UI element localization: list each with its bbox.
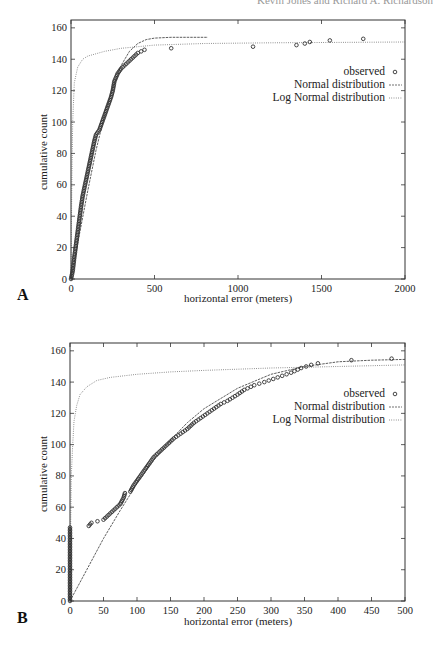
y-axis-ticks: 020406080100120140160: [51, 22, 405, 284]
y-tick-label: 80: [56, 470, 67, 481]
x-tick-label: 0: [68, 283, 73, 294]
panel-letter-a: A: [17, 286, 29, 303]
y-tick-label: 120: [51, 85, 67, 96]
x-tick-label: 500: [397, 605, 413, 616]
x-tick-label: 400: [330, 605, 346, 616]
x-axis-ticks: 0500100015002000: [68, 20, 415, 294]
x-tick-label: 150: [163, 605, 179, 616]
legend: observed Normal distribution Log Normal …: [273, 387, 402, 426]
chart-panel-b: 020406080100120140160 050100150200250300…: [0, 322, 433, 645]
chart-a-canvas: 020406080100120140160 0500100015002000 o…: [0, 0, 433, 322]
y-tick-label: 140: [50, 377, 66, 388]
y-tick-label: 60: [56, 502, 67, 513]
y-tick-label: 80: [57, 148, 68, 159]
x-axis-ticks: 050100150200250300350400450500: [67, 343, 413, 616]
y-tick-label: 60: [57, 179, 68, 190]
observed-points: [69, 37, 365, 281]
chart-panel-a: 020406080100120140160 0500100015002000 o…: [0, 0, 433, 322]
x-tick-label: 100: [129, 605, 145, 616]
legend-normal-label: Normal distribution: [294, 78, 385, 90]
y-tick-label: 120: [50, 408, 66, 419]
x-axis-title: horizontal error (meters): [184, 292, 292, 305]
y-tick-label: 40: [57, 211, 68, 222]
y-tick-label: 100: [51, 117, 67, 128]
plot-frame: [70, 343, 405, 601]
legend-observed-label: observed: [343, 387, 385, 399]
y-tick-label: 100: [50, 439, 66, 450]
y-tick-label: 160: [51, 22, 67, 33]
y-tick-label: 0: [61, 596, 66, 607]
x-tick-label: 2000: [395, 283, 416, 294]
x-tick-label: 450: [364, 605, 380, 616]
x-axis-title: horizontal error (meters): [184, 615, 292, 628]
panel-letter-b: B: [17, 609, 28, 626]
legend-lognormal-label: Log Normal distribution: [273, 413, 386, 426]
x-tick-label: 0: [67, 605, 72, 616]
x-tick-label: 500: [147, 283, 163, 294]
chart-b-canvas: 020406080100120140160 050100150200250300…: [0, 322, 433, 645]
y-tick-label: 160: [50, 345, 66, 356]
y-tick-label: 140: [51, 54, 67, 65]
x-tick-label: 1500: [311, 283, 332, 294]
y-axis-ticks: 020406080100120140160: [50, 345, 405, 606]
legend: observed Normal distribution Log Normal …: [273, 65, 402, 104]
legend-observed-label: observed: [343, 65, 385, 77]
plot-frame: [71, 20, 405, 279]
y-tick-label: 0: [62, 274, 67, 285]
y-tick-label: 20: [56, 564, 67, 575]
y-axis-title: cumulative count: [37, 436, 49, 512]
y-tick-label: 20: [57, 242, 68, 253]
x-tick-label: 350: [297, 605, 313, 616]
x-tick-label: 50: [98, 605, 109, 616]
y-axis-title: cumulative count: [37, 114, 49, 190]
legend-observed-marker: [393, 392, 397, 396]
y-tick-label: 40: [56, 533, 67, 544]
legend-normal-label: Normal distribution: [294, 400, 385, 412]
legend-observed-marker: [393, 70, 397, 74]
legend-lognormal-label: Log Normal distribution: [273, 91, 386, 104]
